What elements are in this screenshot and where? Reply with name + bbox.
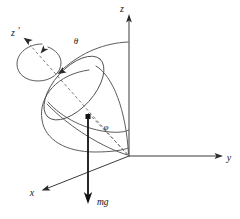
theta-arc (63, 42, 128, 69)
y-axis-label: y (226, 152, 232, 163)
weight-vector-label: mg (97, 197, 109, 207)
spin-rotation-group (17, 44, 61, 81)
cone-slant-edge-right (96, 66, 129, 154)
weight-vector-group (84, 114, 92, 204)
spinning-top-diagram: θ φ z y x z ′ mg (0, 0, 240, 219)
z-prime-axis-label: z (10, 27, 15, 38)
figure-canvas: θ φ z y x z ′ mg (0, 0, 240, 219)
phi-angle-group: φ (88, 113, 128, 154)
z-axis-label: z (119, 3, 124, 14)
spin-rotation-arrowhead (41, 45, 49, 53)
z-prime-axis-label-group: z ′ (10, 25, 21, 38)
y-axis-group (129, 153, 223, 159)
theta-angle-group: θ (58, 36, 129, 74)
body-axis-arrowhead (24, 38, 33, 46)
top-body-group (33, 46, 128, 155)
x-axis-group (42, 156, 130, 191)
x-axis-label: x (29, 187, 35, 198)
spin-rotation-ellipse (17, 44, 61, 81)
theta-label: θ (74, 36, 79, 46)
z-prime-prime-mark: ′ (18, 25, 21, 36)
phi-label: φ (104, 122, 109, 132)
phi-leader-line (88, 113, 128, 154)
cone-rim-ellipse (33, 46, 115, 131)
